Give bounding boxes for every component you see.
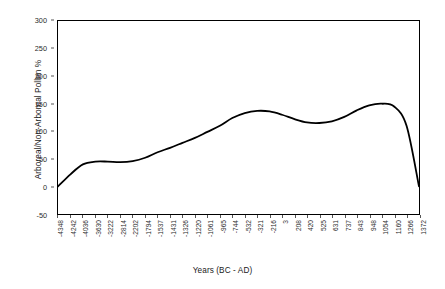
x-axis-tick-mark: [307, 215, 308, 218]
x-axis-tick-label: -321: [257, 220, 264, 233]
x-axis-tick-mark: [332, 215, 333, 218]
plot-area: [57, 20, 420, 215]
y-axis-tick-label: 200: [35, 71, 47, 80]
y-axis-tick-label: 100: [35, 127, 47, 136]
x-axis-tick-mark: [245, 215, 246, 218]
x-axis-tick-labels: -4348-4242-4036-3630-3222-2814-2202-1794…: [0, 215, 445, 265]
x-axis-title: Years (BC - AD): [0, 266, 445, 275]
x-axis-tick-mark: [232, 215, 233, 218]
x-axis-tick-mark: [132, 215, 133, 218]
x-axis-tick-label: -1431: [170, 220, 177, 237]
x-axis-tick-mark: [220, 215, 221, 218]
x-axis-tick-label: -2814: [120, 220, 127, 237]
x-axis-tick-label: 1372: [420, 220, 427, 235]
y-axis-tick-label: 300: [35, 16, 47, 25]
x-axis-tick-mark: [182, 215, 183, 218]
x-axis-tick-mark: [282, 215, 283, 218]
x-axis-tick-label: 1266: [407, 220, 414, 235]
x-axis-tick-label: -744: [232, 220, 239, 233]
y-axis-tick-label: 50: [39, 155, 47, 164]
x-axis-tick-mark: [420, 215, 421, 218]
x-axis-tick-mark: [157, 215, 158, 218]
x-axis-tick-mark: [345, 215, 346, 218]
x-axis-tick-mark: [70, 215, 71, 218]
x-axis-tick-mark: [82, 215, 83, 218]
y-axis-tick-label: 0: [43, 183, 47, 192]
x-axis-tick-mark: [395, 215, 396, 218]
x-axis-tick-label: 737: [345, 220, 352, 231]
x-axis-tick-label: -532: [245, 220, 252, 233]
x-axis-tick-mark: [107, 215, 108, 218]
x-axis-tick-mark: [407, 215, 408, 218]
x-axis-tick-mark: [382, 215, 383, 218]
x-axis-tick-mark: [207, 215, 208, 218]
pollen-series-line: [58, 104, 419, 187]
x-axis-tick-mark: [357, 215, 358, 218]
x-axis-tick-label: 631: [332, 220, 339, 231]
x-axis-tick-mark: [145, 215, 146, 218]
x-axis-tick-label: -1537: [157, 220, 164, 237]
x-axis-tick-label: 3: [282, 220, 289, 224]
pollen-line-chart: Arboreal/Non-Arboreal Pollen % -50050100…: [0, 0, 445, 289]
x-axis-tick-mark: [295, 215, 296, 218]
y-axis-tick-mark: [51, 75, 54, 76]
x-axis-tick-label: -1220: [195, 220, 202, 237]
x-axis-tick-label: -4036: [82, 220, 89, 237]
x-axis-tick-label: -965: [220, 220, 227, 233]
y-axis-tick-label: 150: [35, 99, 47, 108]
x-axis-tick-label: -1326: [182, 220, 189, 237]
x-axis-tick-label: -3222: [107, 220, 114, 237]
x-axis-tick-mark: [170, 215, 171, 218]
x-axis-tick-label: -2202: [132, 220, 139, 237]
x-axis-tick-mark: [195, 215, 196, 218]
y-axis-tick-mark: [51, 159, 54, 160]
y-axis-tick-mark: [51, 20, 54, 21]
x-axis-tick-mark: [95, 215, 96, 218]
x-axis-tick-mark: [270, 215, 271, 218]
x-axis-tick-mark: [57, 215, 58, 218]
x-axis-tick-label: -1061: [207, 220, 214, 237]
x-axis-tick-mark: [120, 215, 121, 218]
y-axis-tick-mark: [51, 47, 54, 48]
x-axis-tick-label: 843: [357, 220, 364, 231]
x-axis-tick-label: 948: [370, 220, 377, 231]
y-axis-tick-mark: [51, 187, 54, 188]
x-axis-tick-label: 1054: [382, 220, 389, 235]
data-line-svg: [58, 21, 419, 214]
x-axis-tick-label: 420: [307, 220, 314, 231]
x-axis-tick-label: -3630: [95, 220, 102, 237]
x-axis-tick-label: -1794: [145, 220, 152, 237]
y-axis-tick-mark: [51, 131, 54, 132]
y-axis-tick-mark: [51, 103, 54, 104]
x-axis-tick-label: -4348: [57, 220, 64, 237]
x-axis-tick-label: 1160: [395, 220, 402, 234]
x-axis-tick-mark: [370, 215, 371, 218]
x-axis-tick-label: -4242: [70, 220, 77, 237]
x-axis-tick-label: 208: [295, 220, 302, 231]
x-axis-tick-mark: [257, 215, 258, 218]
x-axis-tick-label: -216: [270, 220, 277, 233]
x-axis-tick-label: 525: [320, 220, 327, 231]
x-axis-tick-mark: [320, 215, 321, 218]
y-axis-tick-label: 250: [35, 43, 47, 52]
